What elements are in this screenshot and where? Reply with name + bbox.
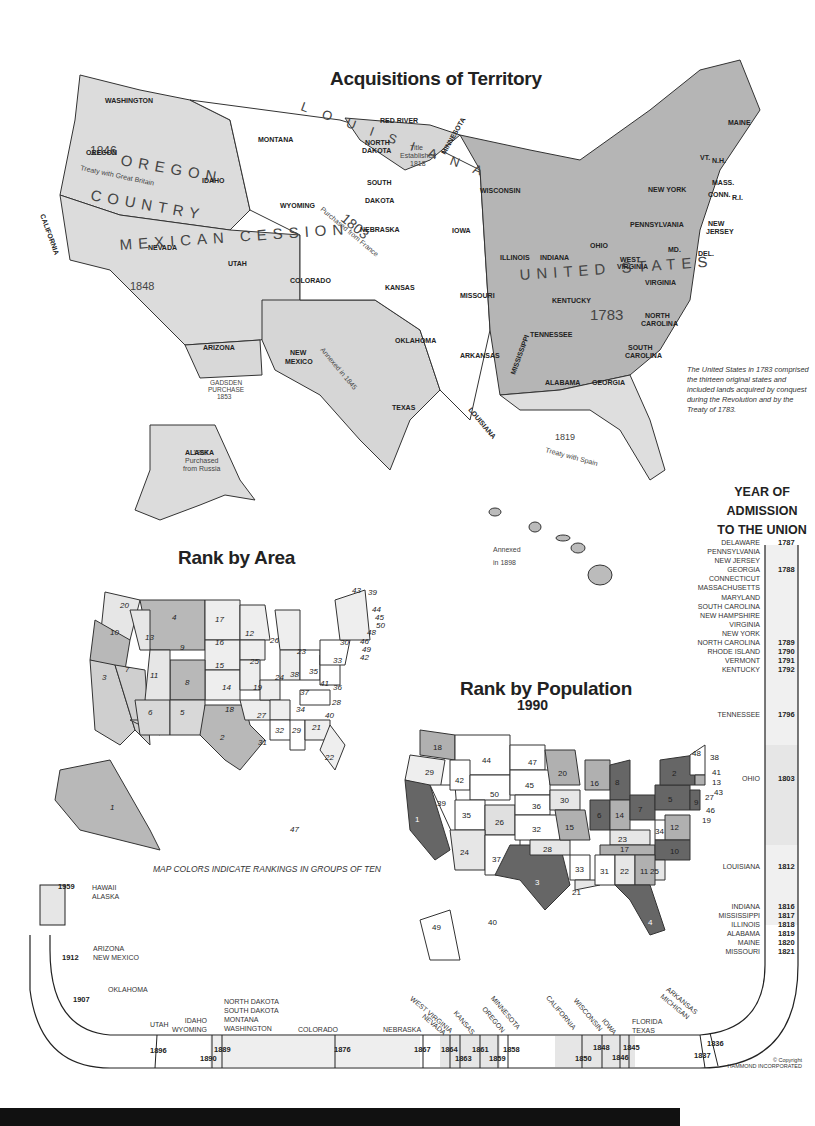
state-new-hampshire: NEW HAMPSHIRE [650,611,760,620]
state-new-york: NEW YORK [650,629,760,638]
svg-text:INDIANA: INDIANA [540,254,569,261]
state-colorado: COLORADO [298,1025,338,1034]
state-south-dakota: SOUTH DAKOTA [224,1006,279,1015]
admission-title: YEAR OF ADMISSION TO THE UNION [712,483,812,540]
state-illinois: ILLINOIS [660,920,760,929]
admission-states-1912: ARIZONA NEW MEXICO [93,944,139,962]
map-caption: The United States in 1783 comprised the … [687,365,812,415]
admission-states-1816-1821: INDIANA MISSISSIPPI ILLINOIS ALABAMA MAI… [660,902,760,957]
year-1787: 1787 [778,538,795,547]
year-1817: 1817 [778,911,795,920]
svg-text:N.H.: N.H. [712,157,726,164]
year-1846: 1846 [612,1053,629,1062]
svg-text:JERSEY: JERSEY [706,228,734,235]
state-utah: UTAH [150,1020,169,1029]
state-mississippi: MISSISSIPPI [660,911,760,920]
state-texas: TEXAS [632,1026,662,1035]
svg-text:OHIO: OHIO [590,242,608,249]
state-delaware: DELAWARE [650,538,760,547]
admission-states-1787-1792: DELAWARE PENNSYLVANIA NEW JERSEY GEORGIA… [650,538,760,674]
svg-text:DEL.: DEL. [698,250,714,257]
svg-text:OREGON: OREGON [86,149,117,156]
year-1816: 1816 [778,902,795,911]
state-new-mexico: NEW MEXICO [93,953,139,962]
state-idaho: IDAHO [172,1016,207,1025]
svg-text:Treaty with Spain: Treaty with Spain [544,446,598,468]
svg-text:NEW: NEW [290,349,307,356]
year-1848: 1848 [593,1043,610,1052]
svg-text:1783: 1783 [590,306,623,323]
year-1959: 1959 [58,882,75,891]
year-1863: 1863 [455,1054,472,1063]
svg-text:Title: Title [410,144,423,151]
svg-text:MASS.: MASS. [712,179,734,186]
svg-text:MAINE: MAINE [728,119,751,126]
svg-text:DAKOTA: DAKOTA [365,197,394,204]
year-1912: 1912 [62,953,79,962]
svg-text:Annexed: Annexed [493,546,521,553]
year-1789: 1789 [778,638,795,647]
hawaii-island [571,543,585,553]
admission-years-1816-1821: 1816 1817 1818 1819 1820 1821 [778,902,795,957]
state-new-jersey: NEW JERSEY [650,556,760,565]
svg-text:from Russia: from Russia [183,465,220,472]
svg-text:Established: Established [400,152,436,159]
svg-text:TENNESSEE: TENNESSEE [530,331,573,338]
admission-states-1889: NORTH DAKOTA SOUTH DAKOTA MONTANA WASHIN… [224,997,279,1033]
svg-text:PENNSYLVANIA: PENNSYLVANIA [630,221,684,228]
state-missouri: MISSOURI [660,947,760,956]
svg-text:LOUISIANA: LOUISIANA [467,406,497,440]
svg-text:CALIFORNIA: CALIFORNIA [39,213,60,256]
svg-text:ILLINOIS: ILLINOIS [500,254,530,261]
svg-text:NEVADA: NEVADA [148,244,177,251]
svg-text:CAROLINA: CAROLINA [641,320,678,327]
state-wyoming: WYOMING [172,1025,207,1034]
admission-states-1890: IDAHO WYOMING [172,1016,207,1034]
svg-text:CONN.: CONN. [708,191,731,198]
year-1867: 1867 [414,1045,431,1054]
svg-text:1819: 1819 [555,432,575,442]
svg-text:VT.: VT. [700,154,710,161]
state-rhode-island: RHODE ISLAND [650,647,760,656]
admission-title-line1: YEAR OF [712,483,812,502]
year-1907: 1907 [73,995,90,1004]
hawaii-island [588,565,612,585]
svg-text:WASHINGTON: WASHINGTON [105,97,153,104]
rank-by-area-title: Rank by Area [178,547,295,569]
state-south-carolina: SOUTH CAROLINA [650,602,760,611]
state-kentucky: KENTUCKY [650,665,760,674]
year-1821: 1821 [778,947,795,956]
year-1819: 1819 [778,929,795,938]
svg-text:MD.: MD. [668,246,681,253]
svg-text:R.I.: R.I. [732,194,743,201]
svg-text:COLORADO: COLORADO [290,277,331,284]
state-alaska: ALASKA [92,892,119,901]
year-1820: 1820 [778,938,795,947]
admission-states-1845: FLORIDA TEXAS [632,1017,662,1035]
svg-text:IOWA: IOWA [452,227,471,234]
svg-text:MONTANA: MONTANA [258,136,293,143]
svg-text:CAROLINA: CAROLINA [625,352,662,359]
year-1850: 1850 [575,1054,592,1063]
svg-text:KENTUCKY: KENTUCKY [552,297,591,304]
svg-text:WEST: WEST [620,256,641,263]
copyright: © Copyright HAMMOND INCORPORATED [700,1057,802,1069]
year-1864: 1864 [441,1045,458,1054]
svg-text:VIRGINIA: VIRGINIA [645,279,676,286]
state-alabama: ALABAMA [660,929,760,938]
year-1845: 1845 [623,1043,640,1052]
year-1803: 1803 [778,774,795,783]
svg-text:GEORGIA: GEORGIA [592,379,625,386]
svg-text:WYOMING: WYOMING [280,202,316,209]
svg-text:KANSAS: KANSAS [385,284,415,291]
state-pennsylvania: PENNSYLVANIA [650,547,760,556]
svg-text:RED RIVER: RED RIVER [380,117,418,124]
year-1818: 1818 [778,920,795,929]
state-vermont: VERMONT [650,656,760,665]
state-massachusetts: MASSACHUSETTS [650,583,760,592]
svg-text:ARKANSAS: ARKANSAS [460,352,500,359]
svg-text:VIRGINIA: VIRGINIA [617,263,648,270]
year-1812: 1812 [778,862,795,871]
svg-text:TEXAS: TEXAS [392,404,416,411]
hawaii-island [529,522,541,532]
